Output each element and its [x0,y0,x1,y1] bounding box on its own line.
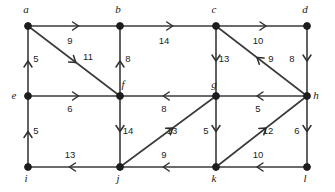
graph-node-a [25,23,32,30]
graph-node-h [304,93,311,100]
node-label-e: e [12,89,17,101]
edge-weight-e-a: 5 [33,53,38,64]
edge-weight-e-f: 6 [67,103,72,114]
node-label-g: g [211,78,217,90]
edge-weight-h-g: 5 [255,103,260,114]
edge-weight-b-c: 14 [159,35,170,46]
edge-weight-c-g: 13 [219,53,230,64]
edge-weight-l-k: 10 [253,149,264,160]
graph-node-k [213,164,220,171]
edge-weight-g-f: 8 [161,103,166,114]
node-label-b: b [115,3,121,15]
graph-node-c [213,23,220,30]
edge-weight-f-b: 8 [125,53,130,64]
graph-edge-a-f [28,26,120,96]
edge-weight-c-d: 10 [253,35,264,46]
edge-weight-f-j: 14 [123,125,134,136]
edge-weight-d-h: 8 [289,53,294,64]
edge-weight-a-f: 11 [83,51,93,62]
node-label-l: l [303,172,306,184]
graph-node-e [25,93,32,100]
node-label-a: a [23,3,29,15]
edge-weight-j-g: 13 [167,125,178,136]
node-label-j: j [114,172,119,184]
graph-node-i [25,164,32,171]
graph-canvas: abcdefghijkl 914105813811968551456131213… [0,0,335,192]
edge-weight-i-e: 5 [33,125,38,136]
node-label-h: h [313,89,319,101]
graph-node-f [117,93,124,100]
edge-weight-k-h: 12 [263,125,274,136]
edge-weight-j-i: 13 [65,149,76,160]
edge-weight-k-j: 9 [161,149,166,160]
node-label-f: f [121,78,126,90]
graph-node-g [213,93,220,100]
edges-layer [28,26,307,167]
graph-node-b [117,23,124,30]
node-label-c: c [212,3,217,15]
graph-diagram: abcdefghijkl 914105813811968551456131213… [0,0,335,192]
node-label-k: k [212,172,218,184]
graph-node-j [117,164,124,171]
edge-weight-h-c: 9 [268,53,273,64]
graph-node-l [304,164,311,171]
edge-weight-h-l: 6 [294,125,299,136]
graph-node-d [304,23,311,30]
node-label-d: d [302,3,308,15]
edge-weight-g-k: 5 [203,125,208,136]
edge-weight-a-b: 9 [67,35,72,46]
node-label-i: i [24,172,27,184]
